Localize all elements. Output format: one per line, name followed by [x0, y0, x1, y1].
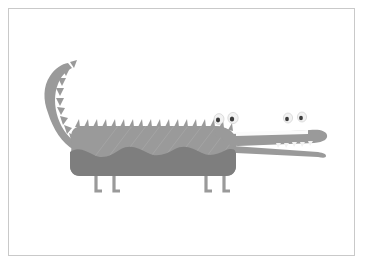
lower-jaw	[233, 146, 326, 158]
legs	[96, 176, 230, 191]
front-leg-right	[114, 176, 120, 191]
eye-snout-left	[283, 113, 292, 123]
pupil	[285, 117, 289, 121]
hind-leg-right	[224, 176, 230, 191]
eyes	[214, 112, 307, 124]
hind-leg-left	[206, 176, 212, 191]
lower-jaw-shape	[233, 146, 326, 158]
crocodile-illustration: Crocodile illustration	[0, 0, 365, 266]
image-canvas: Crocodile illustration	[0, 0, 365, 266]
eye-head-right	[228, 112, 238, 123]
pupil	[230, 117, 234, 122]
front-leg-left	[96, 176, 102, 191]
eye-head-left	[214, 114, 224, 125]
eye-snout-right	[297, 112, 306, 122]
pupil	[216, 118, 220, 123]
pupil	[299, 116, 303, 120]
